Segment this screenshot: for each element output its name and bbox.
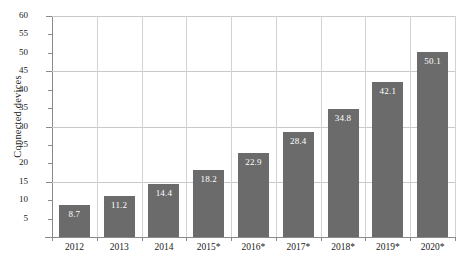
bar-value-label: 42.1 xyxy=(372,87,403,96)
bar-value-label: 8.7 xyxy=(59,210,90,219)
bar-value-label: 11.2 xyxy=(104,201,135,210)
gridline-vertical xyxy=(186,16,187,237)
gridline-vertical xyxy=(365,16,366,237)
y-axis-tick-label: 45 xyxy=(8,66,28,75)
y-axis-tick-label: 60 xyxy=(8,11,28,20)
bar[interactable]: 14.4 xyxy=(148,184,179,237)
bar[interactable]: 18.2 xyxy=(193,170,224,237)
x-axis-tick-mark xyxy=(365,237,366,241)
gridline-vertical xyxy=(321,16,322,237)
y-axis-tick-label: 25 xyxy=(8,140,28,149)
bar-chart: Connected devices 5101520253035404550556… xyxy=(0,0,470,269)
x-axis-tick-mark xyxy=(142,237,143,241)
x-axis-tick-mark xyxy=(410,237,411,241)
bar-value-label: 34.8 xyxy=(328,114,359,123)
y-axis-tick-label: 40 xyxy=(8,85,28,94)
bar-value-label: 14.4 xyxy=(148,189,179,198)
gridline-vertical xyxy=(455,16,456,237)
x-axis-tick-mark xyxy=(186,237,187,241)
bar-value-label: 22.9 xyxy=(238,158,269,167)
x-axis-tick-label: 2016* xyxy=(231,243,276,253)
bar[interactable]: 28.4 xyxy=(283,132,314,237)
bar[interactable]: 42.1 xyxy=(372,82,403,237)
gridline-vertical xyxy=(231,16,232,237)
plot-area: 8.711.214.418.222.928.434.842.150.1 xyxy=(52,16,455,237)
x-axis-tick-mark xyxy=(455,237,456,241)
x-axis-tick-label: 2020* xyxy=(410,243,455,253)
bar-value-label: 50.1 xyxy=(417,57,448,66)
x-axis-tick-label: 2014 xyxy=(142,243,187,253)
gridline-horizontal xyxy=(52,16,455,17)
y-axis-tick-label: 50 xyxy=(8,48,28,57)
x-axis-line xyxy=(45,237,455,238)
x-axis-tick-mark xyxy=(276,237,277,241)
gridline-horizontal xyxy=(52,71,455,72)
gridline-vertical xyxy=(410,16,411,237)
x-axis-tick-label: 2013 xyxy=(97,243,142,253)
bar-value-label: 18.2 xyxy=(193,175,224,184)
gridline-vertical xyxy=(276,16,277,237)
x-axis-tick-mark xyxy=(231,237,232,241)
y-axis-tick-label: 55 xyxy=(8,29,28,38)
y-axis-tick-label: 15 xyxy=(8,177,28,186)
x-axis-tick-label: 2012 xyxy=(52,243,97,253)
x-axis-tick-mark xyxy=(321,237,322,241)
y-axis-tick-label: 35 xyxy=(8,103,28,112)
x-axis-tick-label: 2018* xyxy=(321,243,366,253)
y-axis-tick-label: 5 xyxy=(8,214,28,223)
gridline-vertical xyxy=(142,16,143,237)
bar-value-label: 28.4 xyxy=(283,137,314,146)
bar[interactable]: 11.2 xyxy=(104,196,135,237)
y-axis-tick-label: 10 xyxy=(8,195,28,204)
bar[interactable]: 22.9 xyxy=(238,153,269,237)
x-axis-tick-label: 2017* xyxy=(276,243,321,253)
bar[interactable]: 50.1 xyxy=(417,52,448,237)
y-axis-tick-label: 30 xyxy=(8,122,28,131)
x-axis-tick-mark xyxy=(52,237,53,241)
x-axis-tick-label: 2019* xyxy=(365,243,410,253)
gridline-vertical xyxy=(97,16,98,237)
x-axis-tick-label: 2015* xyxy=(186,243,231,253)
bar[interactable]: 8.7 xyxy=(59,205,90,237)
y-axis-tick-label: 20 xyxy=(8,158,28,167)
bar[interactable]: 34.8 xyxy=(328,109,359,237)
x-axis-tick-mark xyxy=(97,237,98,241)
